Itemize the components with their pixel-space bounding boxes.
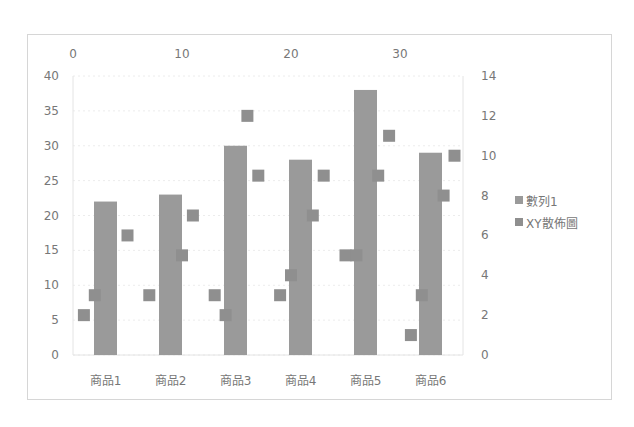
scatter-point (285, 269, 297, 281)
legend-item-scatter: XY散佈圖 (515, 211, 578, 233)
category-label: 商品5 (350, 373, 382, 388)
category-label: 商品1 (90, 373, 122, 388)
right-axis-tick-label: 4 (481, 268, 489, 282)
scatter-point (209, 289, 221, 301)
scatter-point (438, 190, 450, 202)
left-axis-tick-label: 0 (51, 348, 59, 362)
scatter-point (340, 249, 352, 261)
right-axis-tick-label: 6 (481, 228, 489, 242)
bar (419, 153, 442, 355)
scatter-point (274, 289, 286, 301)
right-axis-tick-label: 0 (481, 348, 489, 362)
bar (94, 202, 117, 355)
left-axis-tick-label: 15 (44, 243, 59, 257)
right-axis-tick-label: 10 (481, 149, 496, 163)
legend-item-series1: 數列1 (515, 189, 578, 211)
top-axis-tick-label: 30 (392, 47, 407, 61)
category-label: 商品2 (155, 373, 187, 388)
right-axis-tick-label: 8 (481, 189, 489, 203)
legend-swatch-scatter-icon (515, 218, 523, 226)
scatter-point (405, 329, 417, 341)
scatter-point (122, 229, 134, 241)
scatter-point (252, 170, 264, 182)
chart-frame: 0510152025303540024681012140102030商品1商品2… (27, 34, 612, 400)
left-axis-tick-label: 10 (44, 278, 59, 292)
category-label: 商品6 (415, 373, 447, 388)
left-axis-tick-label: 5 (51, 313, 59, 327)
scatter-point (350, 249, 362, 261)
legend: 數列1 XY散佈圖 (515, 189, 578, 233)
legend-label-scatter: XY散佈圖 (526, 214, 578, 231)
scatter-point (318, 170, 330, 182)
left-axis-tick-label: 20 (44, 209, 59, 223)
scatter-point (143, 289, 155, 301)
scatter-point (187, 210, 199, 222)
legend-label-series1: 數列1 (526, 192, 558, 209)
bar (354, 90, 377, 355)
scatter-point (416, 289, 428, 301)
left-axis-tick-label: 30 (44, 139, 59, 153)
scatter-point (89, 289, 101, 301)
scatter-point (241, 110, 253, 122)
scatter-point (449, 150, 461, 162)
category-label: 商品3 (220, 373, 252, 388)
scatter-point (383, 130, 395, 142)
scatter-point (220, 309, 232, 321)
left-axis-tick-label: 40 (44, 69, 59, 83)
scatter-point (78, 309, 90, 321)
right-axis-tick-label: 2 (481, 308, 489, 322)
top-axis-tick-label: 0 (69, 47, 77, 61)
left-axis-tick-label: 35 (44, 104, 59, 118)
bar (159, 195, 182, 355)
scatter-point (176, 249, 188, 261)
scatter-point (307, 210, 319, 222)
scatter-point (372, 170, 384, 182)
category-label: 商品4 (285, 373, 317, 388)
top-axis-tick-label: 10 (174, 47, 189, 61)
bar (224, 146, 247, 355)
bar (289, 160, 312, 355)
top-axis-tick-label: 20 (283, 47, 298, 61)
right-axis-tick-label: 12 (481, 109, 496, 123)
right-axis-tick-label: 14 (481, 69, 496, 83)
left-axis-tick-label: 25 (44, 174, 59, 188)
legend-swatch-series1-icon (515, 196, 523, 204)
